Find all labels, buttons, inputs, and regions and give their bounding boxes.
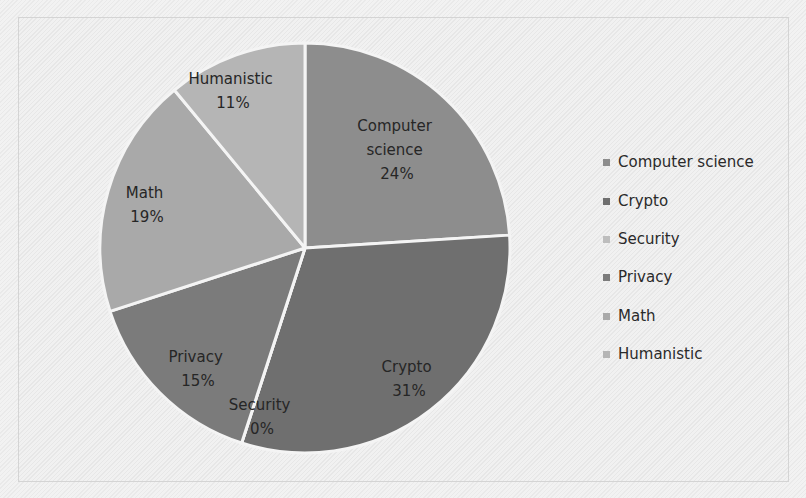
legend-label: Crypto — [618, 192, 668, 210]
legend-swatch-icon — [603, 198, 610, 205]
pie-slices — [100, 43, 510, 453]
legend-swatch-icon — [603, 313, 610, 320]
legend-label: Privacy — [618, 268, 672, 286]
legend-label: Security — [618, 230, 680, 248]
legend-swatch-icon — [603, 274, 610, 281]
legend-swatch-icon — [603, 159, 610, 166]
legend-item-computer-science: Computer science — [603, 143, 754, 181]
legend-item-privacy: Privacy — [603, 258, 754, 296]
legend-swatch-icon — [603, 351, 610, 358]
chart-legend: Computer science Crypto Security Privacy… — [603, 143, 754, 373]
legend-label: Humanistic — [618, 345, 702, 363]
legend-item-humanistic: Humanistic — [603, 335, 754, 373]
legend-item-crypto: Crypto — [603, 181, 754, 219]
legend-swatch-icon — [603, 236, 610, 243]
legend-label: Math — [618, 307, 656, 325]
legend-item-security: Security — [603, 220, 754, 258]
legend-item-math: Math — [603, 297, 754, 335]
legend-label: Computer science — [618, 153, 754, 171]
